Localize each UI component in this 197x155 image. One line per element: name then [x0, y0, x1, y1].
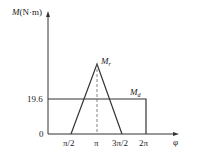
mr-label: Mr: [101, 57, 111, 67]
chart-canvas: [0, 0, 197, 155]
x-tick-pi-half: π/2: [63, 139, 75, 148]
x-axis-arrow-icon: [173, 132, 179, 136]
x-tick-pi: π: [94, 139, 99, 148]
y-tick-19-6: 19.6: [27, 95, 43, 104]
x-tick-2pi: 2π: [139, 139, 148, 148]
y-axis-label: M(N·m): [12, 8, 42, 17]
y-tick-0: 0: [39, 130, 44, 139]
x-axis-label: φ: [173, 138, 178, 147]
y-axis-arrow-icon: [46, 11, 50, 17]
x-tick-3pi-half: 3π/2: [112, 139, 128, 148]
md-label: Md: [130, 88, 141, 98]
